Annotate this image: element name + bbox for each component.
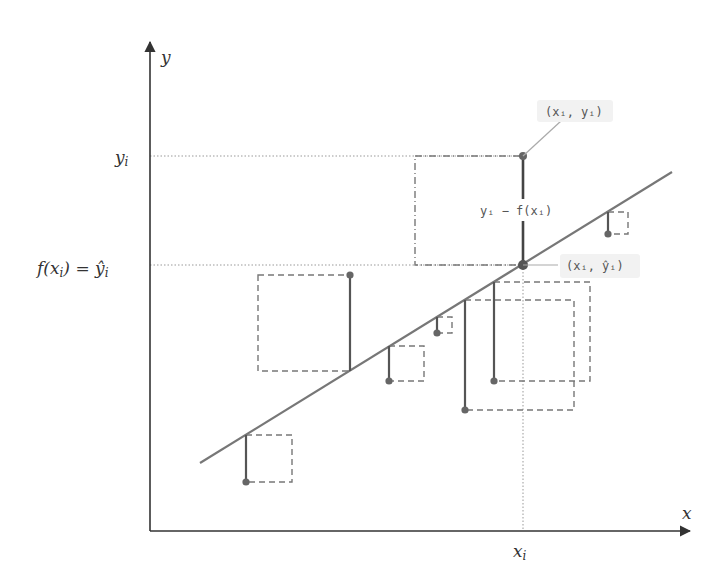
x-axis-label: x [682, 503, 692, 523]
residual-square [494, 282, 590, 381]
residual-label: yᵢ − f(xᵢ) [480, 204, 552, 218]
residual-square [608, 212, 628, 234]
data-point [433, 329, 440, 336]
data-point [490, 377, 497, 384]
dotted-guides [150, 156, 523, 531]
y-axis-label: y [160, 47, 171, 67]
tick-label-xi: xi [513, 541, 527, 563]
point-leader-line [523, 121, 561, 156]
residual-segments [242, 212, 611, 486]
data-point [385, 377, 392, 384]
tick-label-f-xi: f(xi) = ŷi [35, 258, 109, 280]
data-point [604, 230, 611, 237]
fitted-label: (xᵢ, ŷᵢ) [566, 259, 624, 273]
data-point [346, 271, 353, 278]
data-point [461, 406, 468, 413]
residual-square [389, 346, 424, 381]
residual-square [258, 275, 350, 371]
point-label: (xᵢ, yᵢ) [545, 105, 603, 119]
data-point [242, 478, 249, 485]
residual-square [465, 300, 574, 410]
regression-diagram: y x yi f(xi) = ŷi xi (xᵢ, yᵢ) (xᵢ, ŷᵢ) y… [0, 0, 714, 588]
residual-square [246, 435, 292, 482]
tick-label-yi: yi [114, 147, 129, 169]
